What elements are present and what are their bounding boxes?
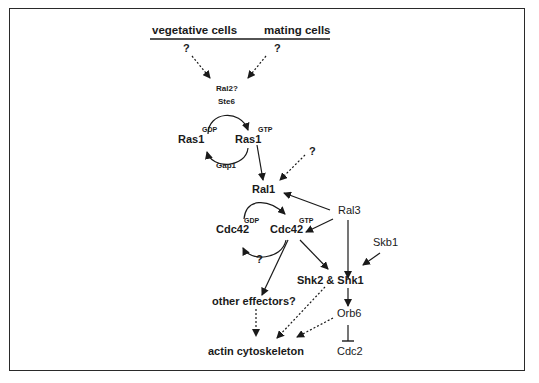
label-mating-cells: mating cells [264,25,330,37]
cdc42-inactivation-arc [243,240,286,257]
arrow-skb1-to-shk [363,253,380,265]
node-cdc42-gdp: Cdc42 [216,224,249,235]
unknown-ral1-input: ? [309,146,316,157]
label-vegetative-cells: vegetative cells [152,25,237,37]
arrow-vegetative-to-ral2 [192,56,210,78]
node-ras1-gtp: Ras1 [235,134,261,145]
node-ral3: Ral3 [338,205,361,216]
arrow-mating-to-ral2 [248,56,266,78]
unknown-vegetative: ? [183,43,190,54]
unknown-mating: ? [274,43,281,54]
arrow-cdc42-to-other-effectors [262,240,288,295]
arrow-unknown-to-ral1 [280,155,305,180]
node-cdc42-gtp: Cdc42 [270,224,303,235]
node-orb6: Orb6 [337,308,361,319]
unknown-cdc42-gap: ? [256,254,263,265]
node-actin-cytoskeleton: actin cytoskeleton [208,346,304,357]
node-ras1-gdp: Ras1 [178,134,204,145]
node-shk2-shk1: Shk2 & Shk1 [297,275,364,286]
sup-ras-gdp: GDP [202,126,217,133]
label-gap1: Gap1 [216,162,236,170]
node-skb1: Skb1 [373,237,398,248]
arrow-cdc42-to-shk [300,240,328,269]
sup-ras-gtp: GTP [258,126,272,133]
arrow-ras1-to-ral1 [257,145,263,180]
label-ste6: Ste6 [218,98,235,106]
node-cdc2: Cdc2 [337,346,363,357]
node-other-effectors: other effectors? [212,296,296,307]
arrow-ral3-to-ral1 [284,193,330,210]
arrow-orb6-to-actin [297,318,333,337]
node-ral1: Ral1 [252,184,275,195]
label-ral2: Ral2? [216,85,238,93]
